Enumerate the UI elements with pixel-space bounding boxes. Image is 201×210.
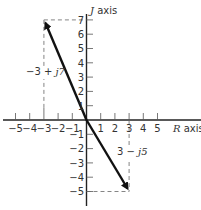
phasor-1-label: −3 + j7 [26,66,66,77]
x-tick-label: 3 [126,123,132,134]
y-tick-label: 4 [78,58,84,69]
y-tick-label: 5 [78,43,84,54]
y-tick-label: 6 [78,29,84,40]
x-tick-label: −5 [8,123,23,134]
x-tick-label: 4 [140,123,146,134]
x-tick-labels: −5 −4 −3 −2 −1 1 2 3 4 5 [8,123,161,134]
r-axis-label: R axis [172,123,201,134]
y-tick-label: −3 [69,158,84,169]
y-tick-label: 2 [78,86,84,97]
x-tick-label: 2 [112,123,118,134]
y-tick-label: −1 [69,129,84,140]
y-tick-labels: 1 2 3 4 5 6 7 −1 −2 −3 −4 −5 [69,15,84,198]
x-tick-label: −2 [51,123,66,134]
y-tick-marks [87,20,94,192]
y-tick-label: −4 [69,172,84,183]
y-tick-label: 7 [78,15,84,26]
y-tick-label: −2 [69,143,84,154]
y-tick-label: 3 [78,72,84,83]
x-tick-label: 1 [98,123,104,134]
phasor-2-label: 3 − j5 [117,146,148,157]
y-tick-label: −5 [69,186,84,197]
j-axis-label: J axis [88,5,117,16]
x-tick-label: −3 [37,123,52,134]
complex-plane-diagram: −5 −4 −3 −2 −1 1 2 3 4 5 1 2 3 4 5 6 7 −… [0,0,201,210]
x-tick-label: 5 [154,123,160,134]
y-tick-label: 1 [78,101,84,112]
x-tick-label: −4 [22,123,37,134]
